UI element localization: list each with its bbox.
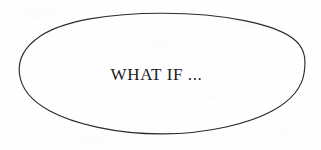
label-layer: WHAT IF ...: [0, 0, 321, 150]
diagram-canvas: WHAT IF ...: [0, 0, 321, 150]
shape-label-text: WHAT IF ...: [111, 66, 203, 83]
